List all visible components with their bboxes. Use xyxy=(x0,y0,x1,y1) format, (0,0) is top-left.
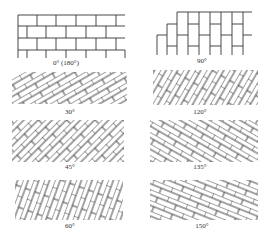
pattern-45-deg xyxy=(12,120,124,162)
label-30-deg: 30° xyxy=(65,108,75,116)
label-60-deg: 60° xyxy=(65,222,75,230)
pattern-150-deg xyxy=(150,180,258,220)
brick-pattern-30 xyxy=(12,72,127,104)
brick-pattern-150 xyxy=(150,180,258,220)
pattern-0-deg xyxy=(15,10,127,60)
pattern-135-deg xyxy=(150,120,258,162)
brick-pattern-120 xyxy=(153,70,258,105)
brick-pattern-45 xyxy=(12,120,124,162)
brick-pattern-horizontal xyxy=(15,10,127,60)
pattern-90-deg xyxy=(155,10,255,55)
brick-pattern-vertical xyxy=(155,10,255,55)
label-90-deg: 90° xyxy=(197,57,207,65)
label-45-deg: 45° xyxy=(65,163,75,171)
label-135-deg: 135° xyxy=(193,163,206,171)
brick-pattern-135 xyxy=(150,120,258,162)
label-150-deg: 150° xyxy=(195,222,208,230)
label-120-deg: 120° xyxy=(193,108,206,116)
pattern-120-deg xyxy=(153,70,258,105)
label-0-deg: 0° (180°) xyxy=(53,59,79,67)
brick-pattern-60 xyxy=(15,180,123,220)
pattern-60-deg xyxy=(15,180,123,220)
pattern-30-deg xyxy=(12,72,127,104)
